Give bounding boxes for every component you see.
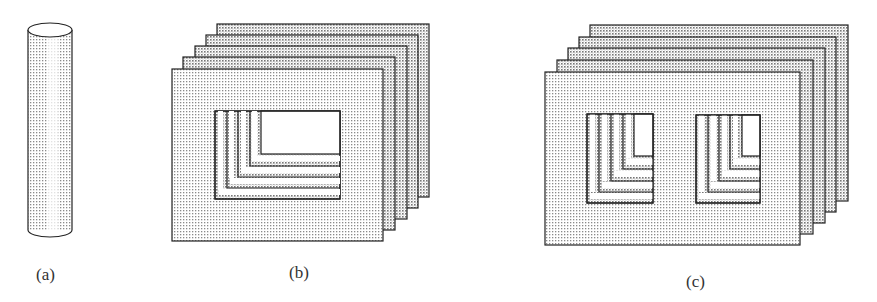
- right-window: [696, 115, 760, 203]
- lamination-stack-single-window: [172, 24, 429, 241]
- panel-label-b: (b): [289, 264, 309, 281]
- figure-canvas: [0, 0, 877, 302]
- cylinder-figure: [28, 23, 72, 237]
- panel-label-a: (a): [36, 266, 55, 283]
- panel-label-c: (c): [686, 273, 705, 290]
- lamination-stack-double-window: [545, 25, 848, 245]
- left-window: [587, 114, 653, 203]
